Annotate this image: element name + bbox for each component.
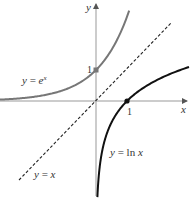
x-axis-label: x (180, 103, 186, 115)
y-axis-label: y (85, 1, 91, 13)
function-graph: y x 1 1 y = ex y = ln x y = x (0, 0, 191, 204)
point-exp-0-1 (94, 68, 99, 73)
exp-label: y = ex (21, 74, 48, 86)
point-ln-1-0 (124, 98, 129, 103)
y-tick-1: 1 (87, 64, 92, 75)
log-curve (97, 67, 189, 197)
ln-label: y = ln x (109, 146, 143, 158)
identity-label: y = x (33, 168, 56, 180)
x-tick-1: 1 (127, 106, 132, 117)
